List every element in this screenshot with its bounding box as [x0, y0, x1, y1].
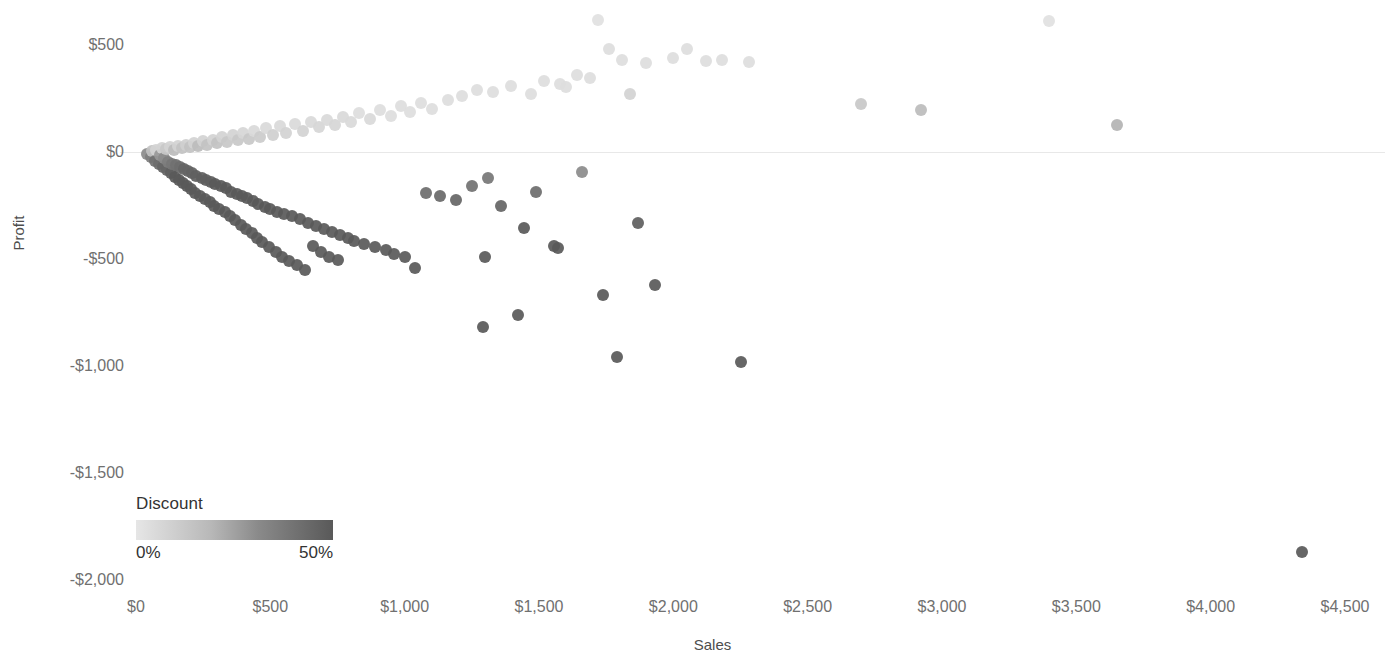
x-tick-label: $4,500	[1321, 598, 1370, 616]
x-tick-label: $2,500	[783, 598, 832, 616]
scatter-point[interactable]	[611, 351, 623, 363]
scatter-point[interactable]	[409, 262, 421, 274]
scatter-point[interactable]	[426, 103, 438, 115]
y-tick-label: $0	[4, 143, 124, 161]
scatter-point[interactable]	[597, 289, 609, 301]
y-tick-label: -$1,000	[4, 357, 124, 375]
scatter-point[interactable]	[495, 200, 507, 212]
legend-range-labels: 0% 50%	[136, 543, 333, 565]
y-tick-label: -$1,500	[4, 464, 124, 482]
scatter-point[interactable]	[530, 186, 542, 198]
x-tick-label: $500	[253, 598, 289, 616]
scatter-point[interactable]	[1296, 546, 1308, 558]
x-axis-title: Sales	[0, 636, 1385, 653]
legend-title: Discount	[136, 494, 346, 514]
scatter-point[interactable]	[450, 194, 462, 206]
scatter-point[interactable]	[332, 254, 344, 266]
x-tick-label: $4,000	[1186, 598, 1235, 616]
scatter-plot-figure: $500$0-$500-$1,000-$1,500-$2,000 $0$500$…	[0, 0, 1385, 664]
scatter-point[interactable]	[681, 43, 693, 55]
x-axis-title-text: Sales	[694, 636, 732, 653]
scatter-point[interactable]	[538, 75, 550, 87]
scatter-point[interactable]	[471, 84, 483, 96]
scatter-point[interactable]	[584, 72, 596, 84]
scatter-point[interactable]	[434, 190, 446, 202]
legend-min-label: 0%	[136, 543, 161, 563]
scatter-point[interactable]	[466, 180, 478, 192]
x-tick-label: $3,000	[918, 598, 967, 616]
scatter-point[interactable]	[915, 104, 927, 116]
x-tick-label: $2,000	[649, 598, 698, 616]
scatter-point[interactable]	[518, 222, 530, 234]
y-tick-label: -$2,000	[4, 571, 124, 589]
scatter-point[interactable]	[616, 54, 628, 66]
scatter-point[interactable]	[299, 264, 311, 276]
x-tick-label: $0	[127, 598, 145, 616]
scatter-point[interactable]	[649, 279, 661, 291]
scatter-point[interactable]	[482, 172, 494, 184]
x-tick-label: $1,500	[515, 598, 564, 616]
scatter-point[interactable]	[667, 52, 679, 64]
scatter-point[interactable]	[404, 106, 416, 118]
scatter-point[interactable]	[364, 113, 376, 125]
y-tick-label: -$500	[4, 250, 124, 268]
scatter-point[interactable]	[592, 14, 604, 26]
scatter-point[interactable]	[603, 43, 615, 55]
scatter-point[interactable]	[420, 187, 432, 199]
scatter-point[interactable]	[479, 251, 491, 263]
discount-color-legend: Discount 0% 50%	[136, 494, 346, 565]
y-tick-label: $500	[4, 36, 124, 54]
scatter-point[interactable]	[624, 88, 636, 100]
scatter-point[interactable]	[716, 54, 728, 66]
x-tick-label: $1,000	[380, 598, 429, 616]
scatter-point[interactable]	[442, 94, 454, 106]
scatter-point[interactable]	[385, 110, 397, 122]
scatter-point[interactable]	[552, 242, 564, 254]
legend-max-label: 50%	[299, 543, 333, 563]
x-tick-label: $3,500	[1052, 598, 1101, 616]
scatter-point[interactable]	[512, 309, 524, 321]
scatter-point[interactable]	[632, 217, 644, 229]
scatter-point[interactable]	[855, 98, 867, 110]
scatter-point[interactable]	[1111, 119, 1123, 131]
scatter-point[interactable]	[399, 251, 411, 263]
scatter-point[interactable]	[640, 57, 652, 69]
y-axis-tick-labels: $500$0-$500-$1,000-$1,500-$2,000	[0, 0, 124, 664]
scatter-point[interactable]	[571, 69, 583, 81]
y-axis-title: Profit	[10, 231, 27, 251]
scatter-point[interactable]	[576, 166, 588, 178]
scatter-point[interactable]	[477, 321, 489, 333]
legend-gradient-ramp[interactable]	[136, 520, 333, 540]
scatter-point[interactable]	[525, 88, 537, 100]
scatter-point[interactable]	[456, 90, 468, 102]
scatter-point[interactable]	[743, 56, 755, 68]
scatter-point[interactable]	[560, 81, 572, 93]
scatter-point[interactable]	[700, 55, 712, 67]
scatter-point[interactable]	[735, 356, 747, 368]
scatter-point[interactable]	[505, 80, 517, 92]
scatter-point[interactable]	[1043, 15, 1055, 27]
scatter-point[interactable]	[487, 86, 499, 98]
